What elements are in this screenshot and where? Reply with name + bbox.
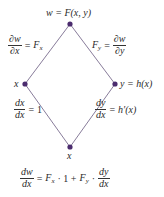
node-right-label: y = h(x) (120, 79, 152, 89)
fraction-denominator: ∂y (114, 46, 125, 57)
fraction-numerator: ∂w (113, 34, 127, 46)
node-top-dot (67, 21, 72, 26)
edge-label-dy-dx: dydx = h′(x) (95, 98, 136, 120)
formula-lhs-numerator: dw (20, 167, 34, 179)
chain-rule-tree-diagram: w = F(x, y) x y = h(x) x ∂w∂x = Fx Fy = … (0, 0, 164, 197)
chain-rule-formula: dwdx = Fx · 1 + Fy · dydx (20, 167, 110, 189)
fraction-numerator: dx (14, 98, 25, 110)
edge-value: h′(x) (118, 104, 136, 115)
edge-value: 1 (37, 104, 42, 115)
edge-label-dw-dx: ∂w∂x = Fx (8, 34, 42, 56)
formula-rhs-denominator: dx (98, 179, 109, 190)
fraction-numerator: ∂w (8, 34, 22, 46)
edge-label-dw-dy: Fy = ∂w∂y (92, 34, 126, 56)
formula-lhs-denominator: dx (21, 179, 32, 190)
partial-subscript: x (39, 44, 42, 52)
formula-term2-multiplier: · (92, 173, 95, 184)
node-top-label: w = F(x, y) (46, 8, 91, 18)
node-left-label: x (14, 79, 18, 89)
node-right-dot (112, 81, 117, 86)
formula-equals: = (37, 173, 43, 184)
node-bottom-label: x (67, 151, 71, 161)
fraction-denominator: ∂x (9, 46, 20, 57)
formula-rhs-numerator: dy (98, 167, 109, 179)
fraction-numerator: dy (95, 98, 106, 110)
fraction-denominator: dx (14, 110, 25, 121)
formula-term2-subscript: y (86, 177, 89, 185)
fraction-denominator: dx (95, 110, 106, 121)
formula-term1-multiplier: · 1 + (58, 173, 77, 184)
node-bottom-dot (67, 144, 72, 149)
node-left-dot (22, 81, 27, 86)
edge-label-dx-dx: dxdx = 1 (14, 98, 42, 120)
formula-term1-subscript: x (51, 177, 54, 185)
partial-subscript: y (98, 44, 101, 52)
